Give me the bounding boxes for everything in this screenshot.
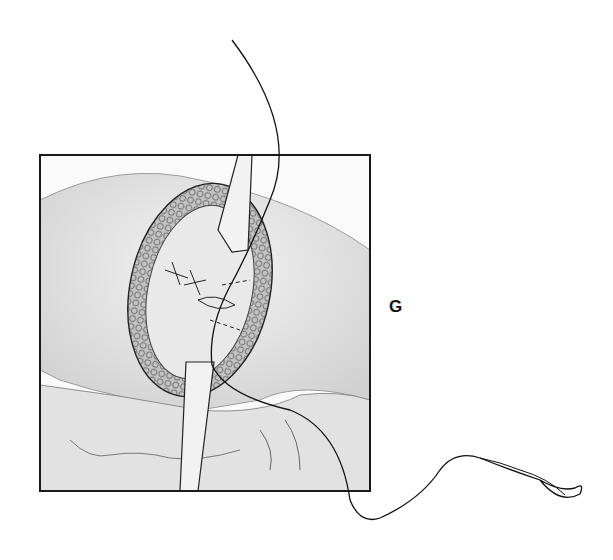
surgical-illustration <box>0 0 613 560</box>
panel-label: G <box>389 297 402 317</box>
illustration-body <box>40 155 370 491</box>
